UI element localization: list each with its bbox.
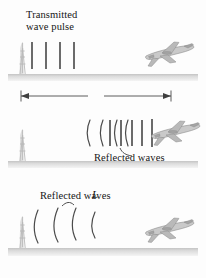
arrow-left-icon xyxy=(21,93,29,99)
panel-transmit: Transmitted wave pulse xyxy=(0,0,206,92)
reflected-waves-label-2: Reflected waves xyxy=(94,152,165,164)
transmitted-pulse-label: Transmitted wave pulse xyxy=(26,9,77,32)
reflected-waves-label-3: Reflected waves xyxy=(40,190,111,202)
panel-dimension: L Reflected waves xyxy=(0,104,206,186)
dimension-graphics xyxy=(21,91,171,102)
panel-return: Reflected waves xyxy=(0,186,206,278)
radar-ranging-figure: Transmitted wave pulse L Reflected waves… xyxy=(0,0,206,278)
arrow-right-icon xyxy=(163,93,171,99)
